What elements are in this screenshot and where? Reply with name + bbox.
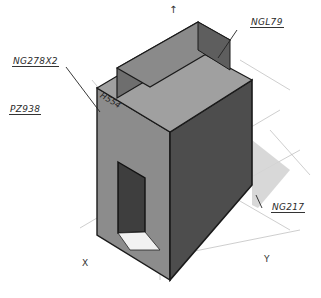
- label-ngl79: NGL79: [250, 17, 284, 28]
- label-pz938: PZ938: [9, 104, 41, 115]
- z-arrow-icon: ↑: [169, 4, 177, 15]
- isometric-sketch: [0, 0, 321, 298]
- label-ng278x2: NG278X2: [12, 56, 59, 67]
- axis-y-label: Y: [264, 254, 270, 264]
- label-ng217: NG217: [271, 202, 305, 213]
- axis-x-label: X: [82, 258, 88, 268]
